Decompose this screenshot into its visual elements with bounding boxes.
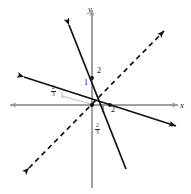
point-intersection xyxy=(90,103,94,107)
x-axis-label: x xyxy=(180,101,184,110)
tick-label-y-2: 2 xyxy=(97,67,101,75)
fraction-label-x-intercept: 2 3 xyxy=(51,85,56,98)
steep-solid-line xyxy=(69,25,126,169)
graph-canvas xyxy=(0,0,191,194)
tick-label-y-1: 1 xyxy=(84,79,88,87)
y-axis-label: y xyxy=(88,5,92,14)
fraction-denominator: 3 xyxy=(51,91,56,98)
fraction-denominator: 3 xyxy=(95,129,100,136)
coordinate-plane-figure: y x 1 2 1 2 2 3 2 3 xyxy=(0,0,191,194)
tick-label-x-1: 1 xyxy=(101,106,105,114)
point-on-y-axis xyxy=(90,76,94,80)
tick-label-x-2: 2 xyxy=(111,106,115,114)
fraction-label-y-intercept: 2 3 xyxy=(95,123,100,136)
